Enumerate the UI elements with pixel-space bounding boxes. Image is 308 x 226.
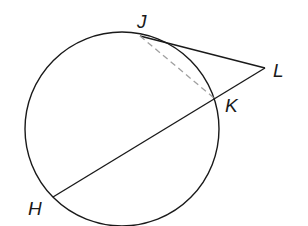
label-h: H	[28, 198, 42, 219]
geometry-diagram: J L K H	[0, 0, 308, 226]
label-j: J	[136, 11, 147, 32]
label-k: K	[225, 95, 239, 116]
secant-segment-lh	[53, 68, 265, 197]
label-l: L	[273, 60, 284, 81]
